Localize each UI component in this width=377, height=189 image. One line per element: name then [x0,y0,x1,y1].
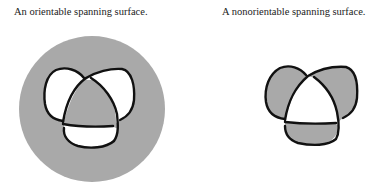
knot-strand-bottom [285,122,336,124]
orientable-surface-figure [19,36,165,182]
nonorientable-surface-figure [266,66,358,145]
diagram-canvas [0,0,377,189]
seifert-disk [19,36,165,182]
